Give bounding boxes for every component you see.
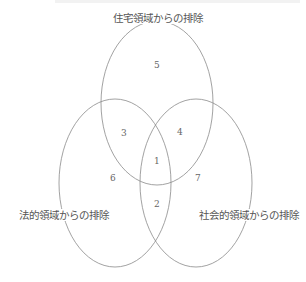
ellipse-legal [59,99,171,267]
region-number-6: 6 [110,173,116,183]
region-number-3: 3 [121,128,127,138]
set-label-legal: 法的領域からの排除 [18,209,110,221]
set-label-housing: 住宅領域からの排除 [112,12,204,24]
set-label-social: 社会的領域からの排除 [198,209,300,221]
region-number-2: 2 [154,199,160,209]
region-number-7: 7 [195,173,201,183]
region-number-4: 4 [177,127,183,137]
region-number-1: 1 [154,156,160,166]
ellipse-social [140,99,252,267]
region-number-5: 5 [154,60,160,70]
venn-diagram [0,0,306,282]
